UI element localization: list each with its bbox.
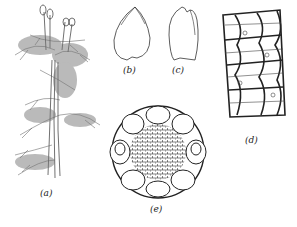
cell-network-drawing: [215, 5, 295, 135]
panel-a-label: (a): [40, 188, 52, 198]
panel-b-label: (b): [123, 65, 136, 75]
panel-a-plant: (a): [0, 0, 110, 227]
moss-plant-drawing: [0, 0, 110, 227]
panel-e-label: (e): [150, 204, 162, 214]
panel-c-label: (c): [172, 65, 184, 75]
leaf-b-drawing: [105, 0, 160, 90]
panel-e-cross-section: (e): [100, 100, 220, 227]
leaf-c-drawing: [160, 0, 210, 90]
panel-b-leaf: (b): [105, 0, 160, 90]
stem-section-drawing: [100, 100, 220, 200]
panel-d-cells: (d): [215, 5, 295, 155]
panel-c-leaf: (c): [160, 0, 210, 90]
panel-d-label: (d): [245, 135, 258, 145]
